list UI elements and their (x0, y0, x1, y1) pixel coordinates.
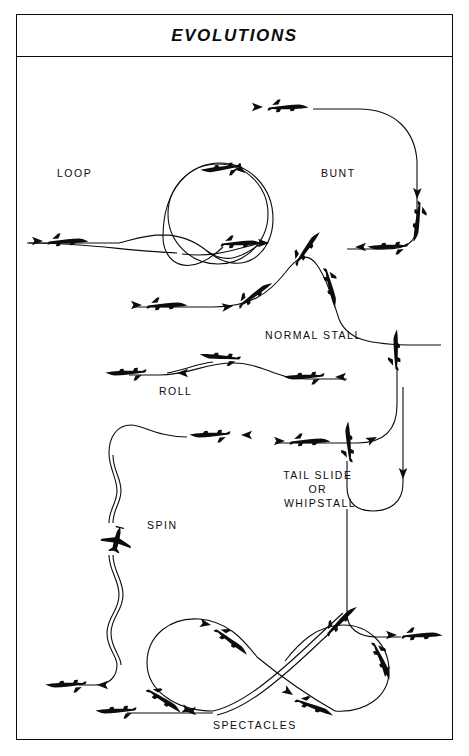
label-line-3: WHIPSTALL (284, 497, 356, 509)
aircraft-recovery (46, 680, 109, 693)
aircraft-level (252, 100, 309, 113)
maneuver-label-spectacles: SPECTACLES (213, 719, 297, 731)
page-title: EVOLUTIONS (171, 26, 298, 46)
aircraft-loop-bottom-right (281, 685, 336, 720)
aircraft-recovery (386, 628, 443, 641)
aircraft-spinning (99, 523, 136, 556)
maneuver-label-bunt: BUNT (321, 167, 356, 179)
diagram-canvas: LOOP (17, 57, 451, 738)
maneuver-label-loop: LOOP (57, 167, 92, 179)
aircraft-vertical (409, 188, 429, 243)
illustration-frame: EVOLUTIONS (16, 14, 453, 740)
aircraft-rolling (199, 349, 241, 367)
aircraft-descending (322, 266, 343, 309)
maneuver-label-roll: ROLL (159, 385, 192, 397)
aircraft-climbing (321, 601, 360, 638)
aircraft-vertical-climb (388, 329, 402, 371)
aircraft-level (32, 234, 89, 247)
aircraft-climbing (222, 277, 275, 312)
maneuver-roll: ROLL (106, 349, 348, 397)
maneuver-spectacles: SPECTACLES (96, 601, 397, 731)
aircraft-inverted (355, 242, 409, 255)
aircraft-level (284, 372, 347, 385)
maneuver-bunt: BUNT (252, 100, 429, 255)
aircraft-level (96, 706, 197, 719)
label-line-2: OR (308, 483, 327, 495)
aircraft-loop-top-left (199, 619, 252, 659)
label-line-1: TAIL SLIDE (283, 469, 352, 481)
aircraft-level (131, 298, 188, 311)
diagram-page: EVOLUTIONS (0, 0, 469, 756)
header-band: EVOLUTIONS (17, 15, 452, 57)
maneuver-label-spin: SPIN (147, 519, 178, 531)
aircraft-loop-right (370, 639, 397, 682)
aircraft-level (274, 434, 331, 447)
aircraft-apex (288, 227, 323, 267)
maneuver-spin: SPIN (46, 425, 253, 692)
aircraft-level (190, 430, 253, 443)
maneuver-label-normal-stall: NORMAL STALL (265, 329, 362, 341)
maneuver-label-tail-slide: TAIL SLIDE OR WHIPSTALL (283, 469, 357, 509)
maneuver-loop: LOOP (27, 162, 273, 266)
